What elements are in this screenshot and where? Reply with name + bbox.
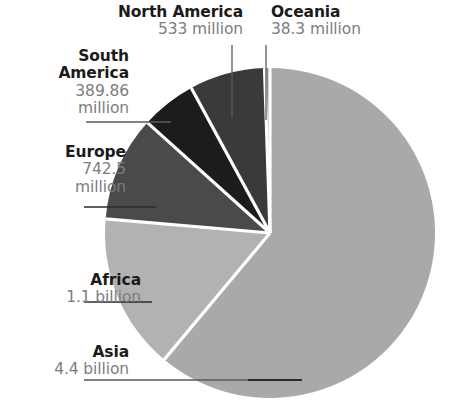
label-asia: Asia 4.4 billion: [54, 344, 129, 379]
label-north-america: North America 533 million: [118, 4, 243, 39]
label-oceania: Oceania 38.3 million: [271, 4, 361, 39]
label-africa-value: 1.1 billion: [66, 289, 141, 306]
label-south-america-value-line1: 389.86: [58, 83, 129, 100]
label-asia-value: 4.4 billion: [54, 361, 129, 378]
label-south-america-name-line2: America: [58, 65, 129, 82]
label-north-america-value: 533 million: [118, 21, 243, 38]
pie-chart-figure: North America 533 million Oceania 38.3 m…: [0, 0, 449, 405]
label-south-america-value-line2: million: [58, 100, 129, 117]
label-oceania-name: Oceania: [271, 4, 361, 21]
label-europe: Europe 742.5 million: [65, 144, 126, 196]
label-africa: Africa 1.1 billion: [66, 272, 141, 307]
label-europe-name: Europe: [65, 144, 126, 161]
label-asia-name: Asia: [54, 344, 129, 361]
label-south-america: South America 389.86 million: [58, 48, 129, 117]
label-europe-value-line1: 742.5: [65, 161, 126, 178]
label-africa-name: Africa: [66, 272, 141, 289]
label-oceania-value: 38.3 million: [271, 21, 361, 38]
label-europe-value-line2: million: [65, 179, 126, 196]
label-north-america-name: North America: [118, 4, 243, 21]
label-south-america-name-line1: South: [58, 48, 129, 65]
